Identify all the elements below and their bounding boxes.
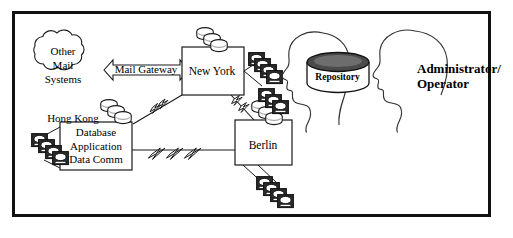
admin-line-2: Operator xyxy=(417,76,501,91)
link-hongkong-berlin xyxy=(132,148,235,159)
cloud-line-1: Other xyxy=(32,44,94,58)
mail-gateway-label: Mail Gateway xyxy=(108,64,184,76)
site-label-new-york: New York xyxy=(182,65,242,77)
service-application: Application xyxy=(62,140,130,154)
other-mail-systems-label: Other Mail Systems xyxy=(32,44,94,86)
diagram-canvas: Other Mail Systems Mail Gateway New York… xyxy=(0,0,513,238)
link-newyork-hongkong xyxy=(133,95,182,124)
service-database: Database xyxy=(62,126,130,140)
admin-line-1: Administrator/ xyxy=(417,61,501,76)
link-newyork-berlin xyxy=(231,95,254,120)
site-label-hong-kong: Hong Kong xyxy=(43,113,103,125)
repository-label: Repository xyxy=(310,73,365,83)
site-label-berlin: Berlin xyxy=(237,139,289,151)
cloud-line-3: Systems xyxy=(32,72,94,86)
disk-stack-icon-hongkong xyxy=(101,100,131,124)
administrator-operator-label: Administrator/ Operator xyxy=(417,61,501,91)
hong-kong-services-list: Database Application Data Comm xyxy=(62,126,130,167)
service-data-comm: Data Comm xyxy=(62,153,130,167)
cloud-line-2: Mail xyxy=(32,58,94,72)
